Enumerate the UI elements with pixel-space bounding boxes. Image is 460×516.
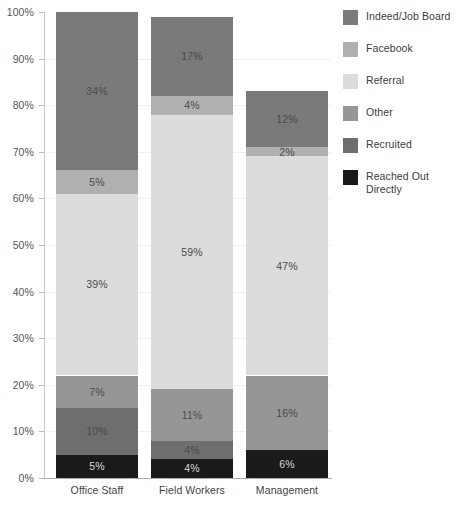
y-axis-tick-label: 0% bbox=[19, 472, 34, 484]
y-axis-tick-label: 50% bbox=[13, 239, 34, 251]
bar-segment[interactable]: 7% bbox=[56, 376, 138, 409]
legend-swatch-icon bbox=[343, 42, 358, 57]
legend-item[interactable]: Reached Out Directly bbox=[343, 170, 460, 196]
y-axis-tick-mark bbox=[39, 385, 44, 386]
x-axis: Office StaffField WorkersManagement bbox=[45, 484, 332, 504]
bar-segment-value-label: 4% bbox=[184, 463, 199, 474]
legend-swatch-icon bbox=[343, 74, 358, 89]
bar-segment-value-label: 4% bbox=[184, 445, 199, 456]
bar-segment[interactable]: 6% bbox=[246, 450, 328, 478]
bar-segment-value-label: 11% bbox=[182, 410, 203, 421]
bar-segment-value-label: 5% bbox=[89, 461, 104, 472]
bar-segment[interactable]: 12% bbox=[246, 91, 328, 147]
legend-item-label: Indeed/Job Board bbox=[366, 10, 451, 23]
bar-segment[interactable]: 34% bbox=[56, 12, 138, 170]
bar-segment[interactable]: 11% bbox=[151, 389, 233, 440]
y-axis-tick-mark bbox=[39, 431, 44, 432]
legend-swatch-icon bbox=[343, 170, 358, 185]
legend-item-label: Recruited bbox=[366, 138, 412, 151]
bar-segment[interactable]: 4% bbox=[151, 441, 233, 460]
bar-segment[interactable]: 59% bbox=[151, 115, 233, 390]
bar-segment-value-label: 12% bbox=[276, 114, 297, 125]
bar-segment-value-label: 16% bbox=[276, 408, 297, 419]
legend-item-label: Referral bbox=[366, 74, 404, 87]
bar-segment[interactable]: 4% bbox=[151, 96, 233, 115]
x-axis-tick-label: Office Staff bbox=[42, 484, 152, 496]
y-axis-tick-label: 20% bbox=[13, 379, 34, 391]
bar-segment-value-label: 4% bbox=[184, 100, 199, 111]
y-axis-tick-label: 100% bbox=[7, 6, 34, 18]
y-axis-tick-label: 10% bbox=[13, 425, 34, 437]
bar-segment[interactable]: 39% bbox=[56, 194, 138, 376]
legend-item-label: Reached Out Directly bbox=[366, 170, 458, 196]
y-axis-tick-mark bbox=[39, 59, 44, 60]
legend-item[interactable]: Recruited bbox=[343, 138, 460, 153]
bar-segment-value-label: 2% bbox=[279, 147, 294, 156]
bar-segment[interactable]: 5% bbox=[56, 455, 138, 478]
legend-item[interactable]: Indeed/Job Board bbox=[343, 10, 460, 25]
legend-item-label: Facebook bbox=[366, 42, 413, 55]
legend-swatch-icon bbox=[343, 138, 358, 153]
x-axis-tick-label: Field Workers bbox=[137, 484, 247, 496]
y-axis-tick-mark bbox=[39, 152, 44, 153]
y-axis-tick-label: 30% bbox=[13, 332, 34, 344]
y-axis-tick-mark bbox=[39, 245, 44, 246]
bar-segment[interactable]: 5% bbox=[56, 170, 138, 193]
x-axis-line bbox=[44, 478, 332, 479]
y-axis-tick-mark bbox=[39, 12, 44, 13]
bar-segment-value-label: 5% bbox=[89, 177, 104, 188]
y-axis-tick-label: 40% bbox=[13, 286, 34, 298]
y-axis: 0%10%20%30%40%50%60%70%80%90%100% bbox=[0, 12, 38, 478]
bar-segment-value-label: 6% bbox=[279, 459, 294, 470]
y-axis-tick-mark bbox=[39, 198, 44, 199]
legend-item[interactable]: Facebook bbox=[343, 42, 460, 57]
bar-segment-value-label: 39% bbox=[86, 279, 107, 290]
bar-column[interactable]: 4%4%11%59%4%17% bbox=[151, 12, 233, 478]
legend-swatch-icon bbox=[343, 106, 358, 121]
bar-segment[interactable]: 4% bbox=[151, 459, 233, 478]
y-axis-tick-mark bbox=[39, 292, 44, 293]
bar-segment[interactable]: 16% bbox=[246, 376, 328, 451]
plot-area: 0%10%20%30%40%50%60%70%80%90%100% 5%10%7… bbox=[0, 0, 336, 516]
legend-swatch-icon bbox=[343, 10, 358, 25]
bar-segment[interactable]: 47% bbox=[246, 156, 328, 375]
bar-segment-value-label: 47% bbox=[276, 261, 297, 272]
x-axis-tick-label: Management bbox=[232, 484, 342, 496]
y-axis-tick-label: 80% bbox=[13, 99, 34, 111]
y-axis-tick-label: 60% bbox=[13, 192, 34, 204]
y-axis-tick-label: 90% bbox=[13, 53, 34, 65]
legend-item-label: Other bbox=[366, 106, 393, 119]
y-axis-tick-label: 70% bbox=[13, 146, 34, 158]
bar-segment[interactable]: 17% bbox=[151, 17, 233, 96]
bar-segment-value-label: 17% bbox=[181, 51, 202, 62]
bar-segment-value-label: 59% bbox=[181, 247, 202, 258]
legend-item[interactable]: Other bbox=[343, 106, 460, 121]
bar-segment[interactable]: 10% bbox=[56, 408, 138, 455]
y-axis-tick-mark bbox=[39, 105, 44, 106]
bar-segment-value-label: 34% bbox=[86, 86, 107, 97]
bar-segment-value-label: 10% bbox=[86, 426, 107, 437]
bar-segment[interactable]: 2% bbox=[246, 147, 328, 156]
bar-segment-value-label: 7% bbox=[89, 387, 104, 398]
bar-column[interactable]: 6%16%47%2%12% bbox=[246, 12, 328, 478]
y-axis-tick-mark bbox=[39, 478, 44, 479]
stacked-bar-chart: 0%10%20%30%40%50%60%70%80%90%100% 5%10%7… bbox=[0, 0, 460, 516]
chart-legend: Indeed/Job BoardFacebookReferralOtherRec… bbox=[343, 10, 460, 213]
legend-item[interactable]: Referral bbox=[343, 74, 460, 89]
bars-area: 5%10%7%39%5%34%4%4%11%59%4%17%6%16%47%2%… bbox=[45, 12, 332, 478]
y-axis-tick-mark bbox=[39, 338, 44, 339]
bar-column[interactable]: 5%10%7%39%5%34% bbox=[56, 12, 138, 478]
